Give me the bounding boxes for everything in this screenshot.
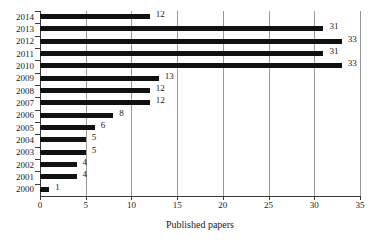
category-label-2010: 2010 bbox=[0, 61, 34, 72]
x-axis-line bbox=[40, 196, 360, 197]
category-label-2006: 2006 bbox=[0, 110, 34, 121]
x-tick-label-30: 30 bbox=[302, 200, 326, 211]
bar-value-label-2012: 33 bbox=[348, 34, 357, 45]
bar-value-label-2000: 1 bbox=[55, 182, 60, 193]
bar-row: 13 bbox=[40, 73, 360, 84]
bar-value-label-2008: 12 bbox=[156, 83, 165, 94]
category-label-2004: 2004 bbox=[0, 135, 34, 146]
x-tick-label-25: 25 bbox=[257, 200, 281, 211]
bar-row: 8 bbox=[40, 110, 360, 121]
bar-2013 bbox=[40, 26, 323, 31]
bar-chart: 12313331331312128655441 2014201320122011… bbox=[0, 0, 375, 243]
bar-row: 5 bbox=[40, 134, 360, 145]
bar-2010 bbox=[40, 63, 342, 68]
category-label-2013: 2013 bbox=[0, 24, 34, 35]
bar-row: 4 bbox=[40, 159, 360, 170]
bar-value-label-2010: 33 bbox=[348, 58, 357, 69]
bar-value-label-2004: 5 bbox=[92, 132, 97, 143]
bar-value-label-2001: 4 bbox=[83, 169, 88, 180]
category-label-2000: 2000 bbox=[0, 184, 34, 195]
bar-2012 bbox=[40, 39, 342, 44]
bar-row: 31 bbox=[40, 48, 360, 59]
bar-row: 1 bbox=[40, 184, 360, 195]
category-label-2011: 2011 bbox=[0, 49, 34, 60]
bar-value-label-2013: 31 bbox=[329, 21, 338, 32]
bar-value-label-2014: 12 bbox=[156, 9, 165, 20]
x-tick-label-0: 0 bbox=[28, 200, 52, 211]
bar-row: 33 bbox=[40, 60, 360, 71]
bar-2007 bbox=[40, 100, 150, 105]
x-tick-label-20: 20 bbox=[211, 200, 235, 211]
bar-value-label-2003: 5 bbox=[92, 145, 97, 156]
category-label-2009: 2009 bbox=[0, 73, 34, 84]
category-label-2003: 2003 bbox=[0, 147, 34, 158]
bar-row: 12 bbox=[40, 85, 360, 96]
bar-2005 bbox=[40, 125, 95, 130]
bar-2011 bbox=[40, 51, 323, 56]
category-label-2005: 2005 bbox=[0, 123, 34, 134]
category-label-2002: 2002 bbox=[0, 160, 34, 171]
bar-row: 4 bbox=[40, 171, 360, 182]
bar-row: 12 bbox=[40, 11, 360, 22]
bar-value-label-2006: 8 bbox=[119, 108, 124, 119]
bar-value-label-2011: 31 bbox=[329, 46, 338, 57]
gridline-35 bbox=[360, 11, 361, 196]
bar-row: 31 bbox=[40, 23, 360, 34]
bar-value-label-2009: 13 bbox=[165, 71, 174, 82]
bar-2002 bbox=[40, 162, 77, 167]
x-tick-label-10: 10 bbox=[119, 200, 143, 211]
bar-2001 bbox=[40, 174, 77, 179]
category-label-2012: 2012 bbox=[0, 36, 34, 47]
category-label-2008: 2008 bbox=[0, 86, 34, 97]
category-label-2007: 2007 bbox=[0, 98, 34, 109]
bar-2009 bbox=[40, 76, 159, 81]
bar-value-label-2007: 12 bbox=[156, 95, 165, 106]
bar-value-label-2005: 6 bbox=[101, 120, 106, 131]
bar-row: 5 bbox=[40, 147, 360, 158]
x-tick-label-5: 5 bbox=[74, 200, 98, 211]
x-tick-label-15: 15 bbox=[165, 200, 189, 211]
bar-2000 bbox=[40, 187, 49, 192]
bar-2004 bbox=[40, 137, 86, 142]
bar-value-label-2002: 4 bbox=[83, 157, 88, 168]
category-label-2014: 2014 bbox=[0, 12, 34, 23]
bar-row: 33 bbox=[40, 36, 360, 47]
bar-row: 6 bbox=[40, 122, 360, 133]
bar-2006 bbox=[40, 113, 113, 118]
bar-row: 12 bbox=[40, 97, 360, 108]
plot-area: 12313331331312128655441 bbox=[40, 11, 360, 196]
category-label-2001: 2001 bbox=[0, 172, 34, 183]
bar-2003 bbox=[40, 150, 86, 155]
bar-2014 bbox=[40, 14, 150, 19]
x-tick-label-35: 35 bbox=[348, 200, 372, 211]
x-axis-title: Published papers bbox=[40, 219, 360, 231]
bar-2008 bbox=[40, 88, 150, 93]
